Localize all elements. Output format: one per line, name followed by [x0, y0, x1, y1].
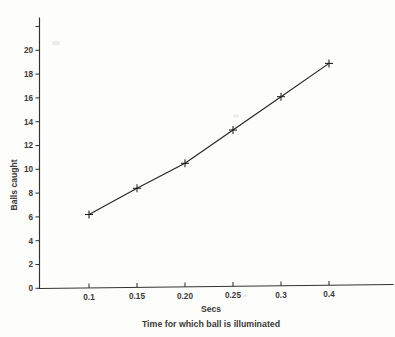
x-tick-label: 0.25: [225, 291, 241, 300]
data-point-marker: [181, 159, 189, 167]
x-tick-label: 0.15: [129, 292, 145, 301]
data-point-markers: [85, 59, 333, 218]
x-axis-tick-labels: 0.1 0.15 0.20 0.25 0.3 0.4: [83, 290, 335, 302]
data-point-marker: [325, 59, 333, 67]
scan-artifact: [243, 295, 248, 298]
scan-artifact: [233, 114, 239, 117]
x-tick-label: 0.20: [177, 292, 193, 301]
x-axis-line: [40, 285, 394, 289]
data-point-marker: [133, 184, 141, 192]
y-tick-label: 6: [28, 213, 33, 222]
line-chart-figure: 0 2 4 6 8 10 12 14 16 18 20: [0, 0, 395, 337]
data-point-marker: [277, 93, 285, 101]
scan-artifact: [52, 41, 60, 45]
y-tick-label: 16: [24, 94, 34, 103]
x-axis-title: Secs: [201, 304, 221, 314]
y-tick-label: 2: [28, 260, 33, 269]
figure-caption: Time for which ball is illuminated: [142, 319, 280, 329]
y-tick-label: 8: [28, 189, 33, 198]
data-point-marker: [85, 211, 93, 219]
y-axis-title: Balls caught: [9, 159, 19, 210]
data-point-marker: [229, 126, 237, 134]
chart-canvas: 0 2 4 6 8 10 12 14 16 18 20: [0, 0, 395, 337]
y-tick-label: 18: [24, 70, 34, 79]
y-tick-label: 12: [24, 141, 34, 150]
y-tick-label: 10: [24, 165, 34, 174]
data-series-line: [89, 63, 329, 214]
y-axis-tick-labels: 0 2 4 6 8 10 12 14 16 18 20: [24, 46, 34, 293]
chart-page: 0 2 4 6 8 10 12 14 16 18 20: [0, 0, 395, 337]
y-tick-label: 0: [28, 284, 33, 293]
x-tick-label: 0.4: [323, 290, 335, 299]
y-axis-ticks: [36, 27, 40, 289]
x-tick-label: 0.1: [83, 293, 95, 302]
y-tick-label: 14: [24, 118, 34, 127]
y-tick-label: 20: [24, 46, 34, 55]
x-tick-label: 0.3: [275, 291, 287, 300]
y-tick-label: 4: [28, 237, 33, 246]
